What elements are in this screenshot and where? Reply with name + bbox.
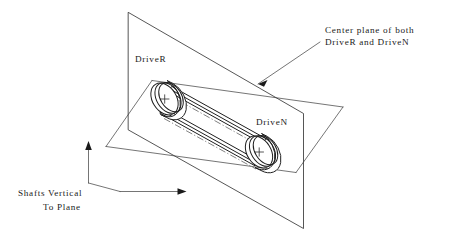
center-plane xyxy=(106,81,343,173)
center-plane-label-line2: DriveR and DriveN xyxy=(325,37,409,47)
technical-diagram: DriveR DriveN Center plane of both Drive… xyxy=(0,0,451,240)
center-plane-label-line1: Center plane of both xyxy=(325,25,414,35)
shafts-vertical-leader xyxy=(85,141,186,195)
shafts-vertical-label-line2: To Plane xyxy=(43,202,81,212)
driven-label: DriveN xyxy=(256,117,288,127)
driver-label: DriveR xyxy=(135,54,166,64)
diagram-canvas: DriveR DriveN Center plane of both Drive… xyxy=(0,0,451,240)
center-plane-leader xyxy=(258,42,320,87)
shafts-vertical-label-line1: Shafts Vertical xyxy=(18,188,82,198)
driver-pulley xyxy=(145,78,188,120)
